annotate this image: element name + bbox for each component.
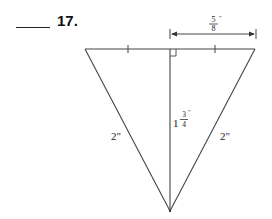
- triangle-right-side: [170, 49, 255, 211]
- svg-text:8: 8: [212, 24, 216, 33]
- svg-text:1: 1: [173, 117, 179, 129]
- svg-text:": ": [219, 15, 222, 21]
- svg-text:": ": [188, 109, 191, 115]
- right-side-label: 2": [220, 130, 230, 142]
- height-label: 1 3 " 4: [173, 109, 191, 129]
- triangle-left-side: [85, 49, 170, 211]
- triangle-figure: 5 " 8 1 3 " 4 2" 2": [0, 0, 272, 219]
- svg-text:5: 5: [212, 15, 216, 24]
- left-side-label: 2": [111, 130, 121, 142]
- half-base-label: 5 " 8: [209, 15, 222, 33]
- svg-text:4: 4: [182, 120, 186, 129]
- right-angle-mark: [170, 49, 176, 56]
- svg-text:3: 3: [182, 110, 186, 119]
- bottom-vertex-dot: [169, 210, 171, 212]
